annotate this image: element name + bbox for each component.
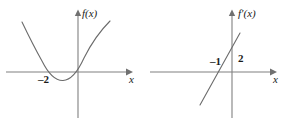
tick-label-2: 2 [238, 53, 244, 64]
x-axis-label: x [273, 74, 278, 85]
tick-label-minus-1: –1 [210, 56, 221, 67]
y-axis-arrowhead-icon [75, 10, 81, 17]
derivative-line [200, 33, 240, 105]
tick-label-minus-2: –2 [38, 74, 49, 85]
f-prime-graph-panel: f′(x) x –1 2 [143, 0, 287, 122]
y-axis-label-f-prime-x: f′(x) [238, 8, 256, 19]
x-axis-label: x [129, 74, 134, 85]
f-graph-panel: f(x) x –2 [0, 0, 143, 122]
y-axis-arrowhead-icon [229, 10, 235, 17]
math-figure: f(x) x –2 f′(x) x –1 2 [0, 0, 287, 122]
f-graph-svg [0, 0, 143, 122]
y-axis-label-fx: f(x) [82, 8, 97, 19]
